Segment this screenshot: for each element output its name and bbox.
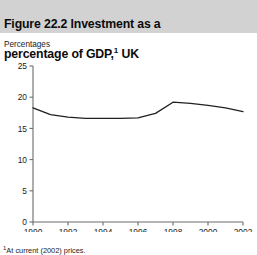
x-tick-label: 1998 (164, 227, 183, 232)
y-tick-label: 15 (18, 124, 28, 134)
axis-unit-caption: Percentages (4, 40, 50, 49)
x-tick-label: 2000 (199, 227, 218, 232)
figure-title-line-1: Figure 22.2 Investment as a (4, 17, 161, 31)
figure-title-band: Figure 22.2 Investment as a percentage o… (0, 0, 257, 33)
y-axis-tick-labels: 0510152025 (18, 61, 28, 227)
line-chart: 0510152025 1990199219941996199820002002 (0, 52, 257, 232)
x-tick-label: 2002 (234, 227, 253, 232)
y-tick-label: 0 (22, 217, 27, 227)
plot-area: 0510152025 1990199219941996199820002002 (0, 52, 257, 232)
footnote-text: At current (2002) prices. (6, 246, 85, 255)
data-series-line (33, 102, 243, 118)
x-tick-label: 1992 (59, 227, 78, 232)
x-tick-label: 1990 (24, 227, 43, 232)
x-tick-label: 1996 (129, 227, 148, 232)
figure-container: Figure 22.2 Investment as a percentage o… (0, 0, 257, 255)
y-tick-label: 25 (18, 61, 28, 71)
figure-footnote: 1At current (2002) prices. (3, 246, 257, 255)
x-tick-label: 1994 (94, 227, 113, 232)
y-tick-label: 20 (18, 92, 28, 102)
y-tick-label: 5 (22, 186, 27, 196)
y-tick-label: 10 (18, 155, 28, 165)
x-axis-tick-labels: 1990199219941996199820002002 (24, 227, 253, 232)
